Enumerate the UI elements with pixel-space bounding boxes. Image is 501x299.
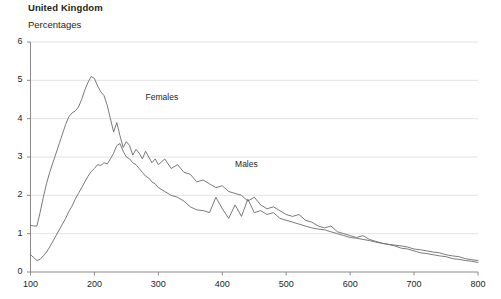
x-axis-label-400: 400 — [202, 279, 242, 289]
x-axis-label-500: 500 — [266, 279, 306, 289]
line-chart-plot — [0, 0, 501, 299]
y-axis-label-0: 0 — [5, 266, 23, 276]
x-axis-label-100: 100 — [11, 279, 51, 289]
x-axis-label-700: 700 — [394, 279, 434, 289]
series-paths — [31, 77, 479, 263]
series-line-females — [31, 77, 479, 263]
y-axis-label-3: 3 — [5, 151, 23, 161]
x-axis-label-300: 300 — [138, 279, 178, 289]
x-axis-label-200: 200 — [74, 279, 114, 289]
x-axis-label-600: 600 — [330, 279, 370, 289]
series-annotation-females: Females — [146, 92, 179, 102]
y-axis-label-5: 5 — [5, 74, 23, 84]
y-axis-label-4: 4 — [5, 113, 23, 123]
chart-container: United Kingdom Percentages 6543210 10020… — [0, 0, 501, 299]
x-axis-label-800: 800 — [458, 279, 498, 289]
series-annotation-males: Males — [235, 159, 258, 169]
y-axis-label-6: 6 — [5, 36, 23, 46]
gridlines — [31, 42, 479, 234]
y-axis-label-1: 1 — [5, 228, 23, 238]
y-axis-label-2: 2 — [5, 189, 23, 199]
